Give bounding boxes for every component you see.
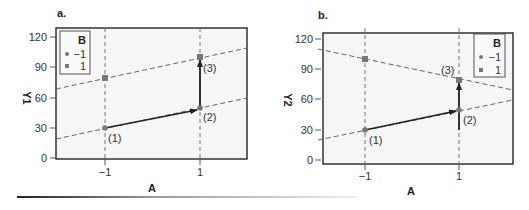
legend-title: B: [78, 34, 86, 46]
x-tick: 1: [197, 166, 203, 178]
point-marker: [197, 105, 203, 111]
y-tick: 30: [301, 124, 313, 136]
y-axis-a: 0 30 60 90 120 Y1: [21, 31, 56, 164]
legend-title: B: [493, 37, 501, 49]
annotation: (3): [441, 64, 454, 76]
legend-b: B −1 1: [474, 34, 505, 77]
point-marker: [456, 107, 462, 113]
x-axis-label-b: A: [407, 185, 415, 197]
y-tick: 120: [295, 33, 313, 45]
x-axis-a: −1 1 A: [99, 159, 203, 194]
panel-a: a. 0 30 60 90 120 Y1 −1 1 A: [21, 7, 247, 194]
x-axis-label-a: A: [148, 182, 156, 194]
legend-a: B −1 1: [60, 31, 90, 74]
y-tick: 60: [35, 92, 47, 104]
y-tick: 0: [41, 152, 47, 164]
y-tick: 90: [35, 61, 47, 73]
panel-label-a: a.: [57, 7, 66, 19]
point-marker: [362, 127, 368, 133]
y-axis-b: 0 30 60 90 120 Y2: [282, 33, 321, 166]
annotation: (2): [203, 111, 216, 123]
annotation: (2): [463, 114, 476, 126]
y-tick: 60: [301, 93, 313, 105]
legend-circle-icon: [65, 52, 69, 56]
x-tick: −1: [359, 170, 372, 182]
legend-label: 1: [80, 60, 86, 72]
x-tick: −1: [99, 166, 112, 178]
legend-label: 1: [495, 64, 501, 76]
y-tick: 0: [307, 154, 313, 166]
y-tick: 120: [29, 31, 47, 43]
legend-square-icon: [479, 68, 483, 72]
legend-circle-icon: [479, 55, 483, 59]
x-axis-b: −1 1 A: [359, 164, 462, 197]
annotation: (1): [369, 134, 382, 146]
legend-label: −1: [73, 48, 86, 60]
legend-label: −1: [488, 51, 501, 63]
y-axis-label-a: Y1: [21, 91, 33, 104]
y-tick: 30: [35, 122, 47, 134]
point-marker: [456, 77, 462, 83]
legend-square-icon: [65, 64, 69, 68]
annotation: (1): [108, 132, 121, 144]
point-marker: [102, 125, 108, 131]
point-marker: [102, 75, 108, 81]
panel-label-b: b.: [318, 9, 328, 21]
x-tick: 1: [456, 170, 462, 182]
annotation: (3): [203, 62, 216, 74]
bottom-divider: [17, 196, 357, 198]
panel-b: b. 0 30 60 90 120 Y2 −1 1 A: [282, 9, 513, 197]
point-marker: [362, 56, 368, 62]
y-tick: 90: [301, 63, 313, 75]
figure: a. 0 30 60 90 120 Y1 −1 1 A: [0, 0, 529, 210]
point-marker: [197, 54, 203, 60]
y-axis-label-b: Y2: [282, 93, 294, 106]
